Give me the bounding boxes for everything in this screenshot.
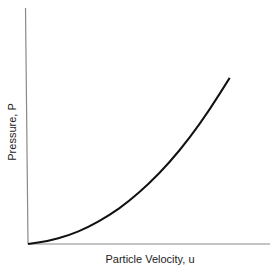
chart-canvas	[0, 0, 280, 273]
x-axis-label: Particle Velocity, u	[105, 253, 194, 265]
y-axis	[26, 8, 29, 244]
y-axis-label: Pressure, P	[6, 103, 18, 160]
pressure-velocity-curve	[28, 78, 230, 244]
